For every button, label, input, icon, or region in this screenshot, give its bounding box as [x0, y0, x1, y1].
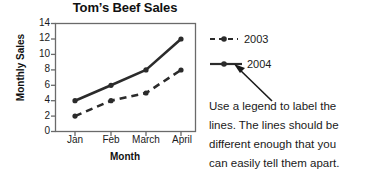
figure-chart-with-annotation: Tom’s Beef Sales Monthly Sales Month 14 … [0, 0, 372, 179]
y-axis-ticks [51, 24, 56, 132]
annotation-text-line: lines. The lines should be [209, 119, 339, 131]
annotation-text-line: Use a legend to label the [209, 100, 336, 112]
x-axis-ticks [75, 132, 181, 137]
annotation-text-line: different enough that you [209, 138, 336, 150]
series-line-2004 [75, 39, 181, 101]
annotation-text-line: can easily tell them apart. [209, 157, 339, 169]
legend-label-2003: 2003 [244, 34, 268, 45]
legend-swatch-2003 [210, 36, 238, 42]
legend-label-2004: 2004 [247, 59, 271, 70]
plot-canvas [0, 0, 372, 179]
